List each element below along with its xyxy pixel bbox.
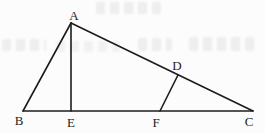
segment-fd xyxy=(160,75,178,111)
segment-ab xyxy=(23,23,71,111)
segment-ac xyxy=(71,23,253,111)
geometry-figure: A B C D E F xyxy=(0,0,265,133)
vertex-label-c: C xyxy=(245,115,254,128)
vertex-label-d: D xyxy=(172,59,181,72)
vertex-label-e: E xyxy=(67,116,75,129)
vertex-label-b: B xyxy=(15,114,24,127)
vertex-label-f: F xyxy=(152,116,159,129)
vertex-label-a: A xyxy=(69,9,78,22)
triangle-diagram xyxy=(0,0,265,133)
